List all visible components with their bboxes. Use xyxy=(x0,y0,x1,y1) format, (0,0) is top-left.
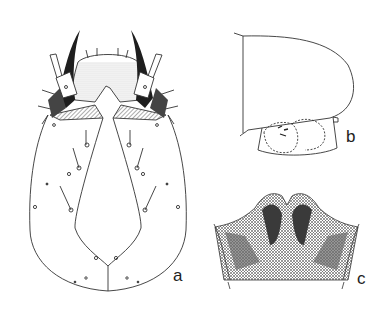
panel-c-mouthparts xyxy=(214,194,359,289)
panel-label-c: c xyxy=(357,270,366,287)
panel-a-head-dorsal xyxy=(30,48,187,291)
panel-b-head-lateral xyxy=(234,33,354,155)
panel-label-b: b xyxy=(346,128,355,145)
figure-illustration xyxy=(0,0,383,312)
panel-label-a: a xyxy=(173,267,182,284)
